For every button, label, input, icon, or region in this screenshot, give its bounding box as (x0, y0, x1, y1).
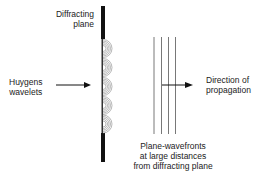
label-line: Huygens (9, 77, 43, 87)
label-diffracting-plane: Diffracting plane (56, 9, 94, 29)
diffracting-plane-bottom (101, 133, 105, 162)
huygens-arrow (56, 82, 91, 88)
label-huygens-wavelets: Huygens wavelets (9, 77, 43, 97)
diffracting-plane-aperture (102, 39, 104, 133)
label-line: plane (56, 19, 94, 29)
label-line: Direction of (206, 75, 251, 85)
label-line: propagation (206, 85, 251, 95)
label-line: from diffracting plane (122, 161, 224, 171)
label-line: Diffracting (56, 9, 94, 19)
label-line: wavelets (9, 87, 43, 97)
huygens-wavelets (103, 40, 112, 134)
label-direction-of-propagation: Direction of propagation (206, 75, 251, 95)
diffracting-plane-top (101, 6, 105, 39)
label-plane-wavefronts: Plane-wavefronts at large distances from… (122, 141, 224, 171)
label-line: at large distances (122, 151, 224, 161)
propagation-arrow (162, 82, 193, 88)
label-line: Plane-wavefronts (122, 141, 224, 151)
